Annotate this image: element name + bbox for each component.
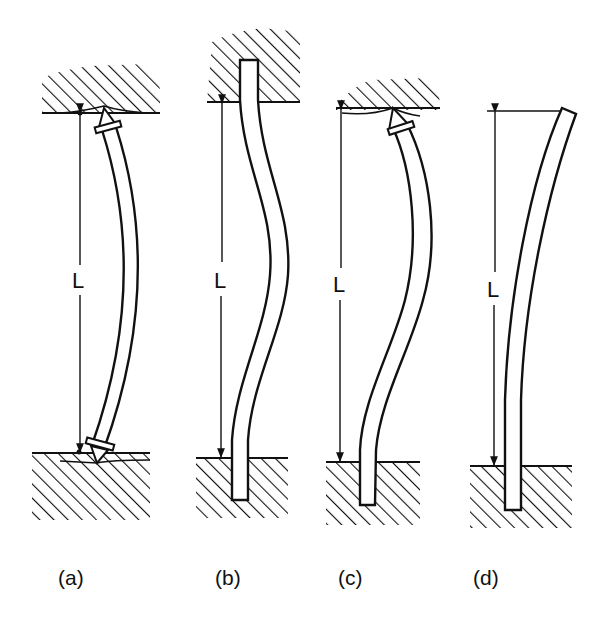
length-label: L (214, 268, 226, 293)
length-label: L (487, 277, 499, 302)
length-dimension: L (333, 109, 345, 461)
panel-c: L (c) (326, 78, 440, 589)
length-dimension: L (214, 103, 226, 457)
panel-a: L (a) (32, 64, 160, 589)
column-b (232, 60, 288, 500)
panel-caption-a: (a) (58, 566, 84, 589)
length-label: L (72, 268, 84, 293)
bottom-support-hatch (32, 453, 150, 520)
panel-caption-d: (d) (473, 566, 499, 589)
top-support-hatch (42, 64, 160, 113)
column-c (360, 108, 432, 505)
column-buckling-diagram: L (a) L (b) (0, 0, 606, 622)
column-d (505, 108, 576, 510)
top-support-hatch (336, 78, 440, 116)
panel-d: L (d) (470, 108, 576, 589)
panel-caption-c: (c) (338, 566, 363, 589)
length-dimension: L (487, 112, 499, 465)
length-dimension: L (72, 111, 84, 455)
column-a (86, 108, 138, 463)
length-label: L (333, 272, 345, 297)
panel-b: L (b) (196, 28, 300, 589)
panel-caption-b: (b) (215, 566, 241, 589)
